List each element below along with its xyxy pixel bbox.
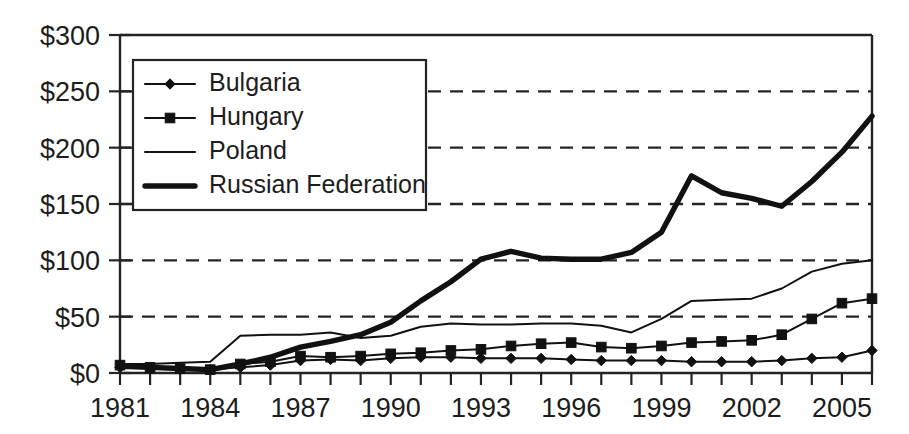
series-marker-square: [687, 338, 697, 348]
x-axis-tick-label: 1993: [451, 393, 511, 423]
x-axis-tick-label: 1996: [541, 393, 601, 423]
series-marker-square: [596, 342, 606, 352]
series-marker-square: [837, 298, 847, 308]
y-axis-tick-label: $50: [55, 303, 100, 333]
series-marker-diamond: [656, 355, 666, 365]
legend-item-label: Russian Federation: [209, 170, 426, 198]
line-chart: $0$50$100$150$200$250$300198119841987199…: [0, 0, 909, 434]
series-marker-square: [356, 351, 366, 361]
series-marker-diamond: [566, 354, 576, 364]
series-marker-square: [326, 352, 336, 362]
series-marker-square: [476, 345, 486, 355]
series-marker-square: [777, 330, 787, 340]
legend-item-label: Bulgaria: [209, 68, 301, 96]
series-marker-diamond: [837, 352, 847, 362]
x-axis-tick-label: 1981: [90, 393, 150, 423]
series-marker-diamond: [746, 357, 756, 367]
x-axis-tick-label: 1999: [631, 393, 691, 423]
series-marker-diamond: [777, 355, 787, 365]
series-marker-square: [165, 113, 175, 123]
legend-item-label: Hungary: [209, 102, 304, 130]
series-marker-square: [717, 337, 727, 347]
series-marker-square: [566, 338, 576, 348]
series-marker-square: [657, 341, 667, 351]
y-axis-tick-label: $200: [40, 134, 100, 164]
y-axis-tick-label: $150: [40, 190, 100, 220]
series-marker-square: [446, 346, 456, 356]
series-marker-square: [506, 341, 516, 351]
series-marker-diamond: [506, 353, 516, 363]
series-marker-diamond: [807, 353, 817, 363]
series-marker-square: [627, 343, 637, 353]
legend-item-label: Poland: [209, 136, 287, 164]
series-marker-diamond: [596, 355, 606, 365]
x-axis-tick-label: 1990: [361, 393, 421, 423]
series-marker-square: [386, 349, 396, 359]
y-axis-tick-label: $100: [40, 246, 100, 276]
series-marker-diamond: [536, 353, 546, 363]
series-marker-square: [807, 314, 817, 324]
x-axis-tick-label: 2002: [722, 393, 782, 423]
series-marker-square: [867, 294, 877, 304]
series-marker-diamond: [686, 357, 696, 367]
x-axis-tick-label: 2005: [812, 393, 872, 423]
x-axis-tick-label: 1984: [180, 393, 240, 423]
series-marker-square: [536, 339, 546, 349]
series-marker-square: [416, 348, 426, 358]
y-axis-tick-label: $0: [70, 359, 100, 389]
chart-canvas: $0$50$100$150$200$250$300198119841987199…: [0, 0, 909, 434]
series-marker-diamond: [867, 345, 877, 355]
series-marker-diamond: [626, 355, 636, 365]
y-axis-tick-label: $250: [40, 77, 100, 107]
series-marker-square: [747, 336, 757, 346]
series-marker-diamond: [716, 357, 726, 367]
y-axis-tick-label: $300: [40, 21, 100, 51]
series-marker-square: [296, 351, 306, 361]
x-axis-tick-label: 1987: [270, 393, 330, 423]
series-marker-diamond: [476, 353, 486, 363]
